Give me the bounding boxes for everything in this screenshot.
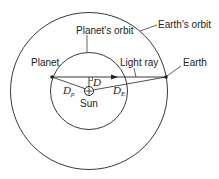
light-ray-leader — [134, 68, 136, 77]
d-label: D — [92, 76, 101, 88]
earths-orbit-leader — [140, 25, 157, 31]
planets-orbit-label: Planet's orbit — [76, 25, 134, 36]
d-p-label: D — [62, 84, 71, 96]
earth-leader — [167, 66, 181, 76]
sun-label: Sun — [80, 98, 98, 109]
d-e-subscript: E — [120, 90, 126, 98]
earths-orbit-label: Earth's orbit — [158, 19, 211, 30]
orbit-diagram: Earth's orbit Planet's orbit Planet Eart… — [0, 0, 219, 179]
d-e-label: D — [112, 84, 121, 96]
planet-dot — [50, 75, 54, 79]
d-e-line — [93, 77, 166, 90]
earth-label: Earth — [183, 57, 207, 68]
d-p-subscript: p — [70, 90, 75, 98]
right-angle-marker — [89, 77, 93, 81]
light-ray-label: Light ray — [120, 57, 158, 68]
arrowhead-icon — [111, 75, 118, 80]
planet-label: Planet — [31, 57, 60, 68]
